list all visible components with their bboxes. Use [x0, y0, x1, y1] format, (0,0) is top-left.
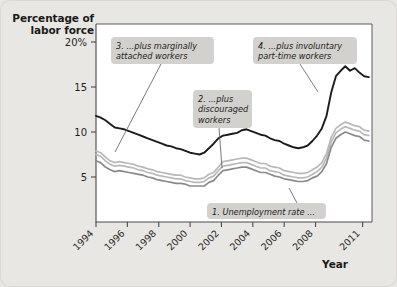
annotation-text: attached workers	[116, 51, 188, 61]
x-tick-label: 2000	[165, 228, 190, 253]
line-chart-plot: 199419961998200020022004200620082011 510…	[0, 0, 397, 287]
x-tick-label: 1996	[102, 228, 127, 253]
x-tick-label: 1994	[71, 228, 96, 253]
y-tick-label: 10	[74, 127, 87, 138]
annotation-text: 4. ...plus involuntary	[258, 41, 342, 51]
x-tick-label: 1998	[133, 228, 158, 253]
y-tick-label: 20%	[65, 37, 87, 48]
x-tick-label: 2002	[196, 228, 221, 253]
x-axis-tick-labels: 199419961998200020022004200620082011	[71, 228, 362, 253]
annotation-text: part-time workers	[257, 51, 332, 61]
y-axis-tick-labels: 5101520%	[65, 37, 87, 183]
annotation-text: 3. ...plus marginally	[116, 41, 197, 51]
annotation-callout: 4. ...plus involuntarypart-time workers	[253, 37, 357, 64]
x-tick-label: 2011	[337, 228, 362, 253]
y-tick-label: 15	[74, 82, 87, 93]
annotation-callout: 2. ...plusdiscouragedworkers	[193, 90, 252, 128]
annotation-text: 1. Unemployment rate ...	[212, 207, 315, 217]
annotation-text: workers	[198, 115, 231, 125]
x-tick-label: 2008	[290, 228, 315, 253]
annotation-text: 2. ...plus	[198, 94, 234, 104]
annotation-text: discouraged	[198, 104, 249, 114]
y-tick-label: 5	[81, 172, 87, 183]
x-tick-label: 2004	[227, 228, 252, 253]
x-tick-label: 2006	[259, 228, 284, 253]
annotation-callout: 3. ...plus marginallyattached workers	[111, 37, 214, 64]
chart-figure: Percentage of labor force Year 199419961…	[0, 0, 397, 287]
annotation-callout: 1. Unemployment rate ...	[207, 203, 326, 219]
